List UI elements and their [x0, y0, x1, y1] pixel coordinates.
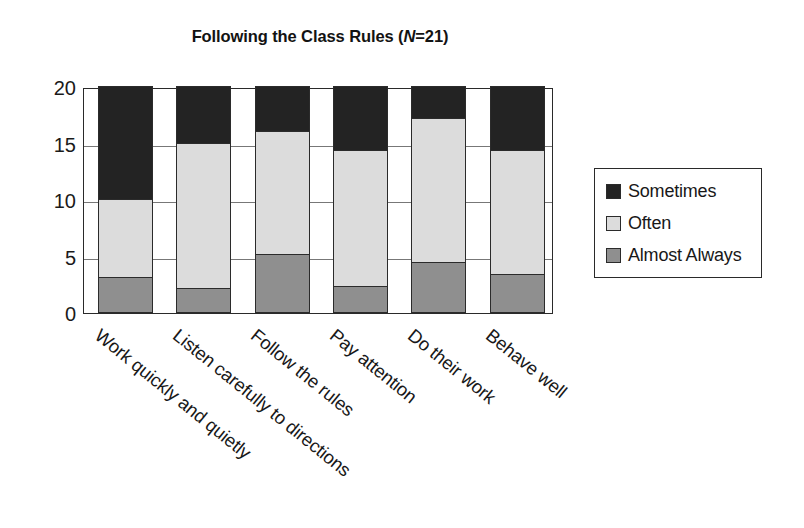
stacked-bar[interactable] — [333, 87, 388, 313]
bar-group — [397, 89, 475, 313]
chart-figure: Following the Class Rules (N=21) 0510152… — [0, 0, 804, 528]
legend-label: Sometimes — [628, 181, 716, 202]
chart-title: Following the Class Rules (N=21) — [0, 27, 640, 46]
x-axis-label: Behave well — [483, 326, 570, 402]
bar-segment-almost-always[interactable] — [490, 273, 545, 313]
x-axis-label: Listen carefully to directions — [169, 326, 353, 480]
bar-segment-sometimes[interactable] — [490, 86, 545, 152]
legend-swatch-icon — [606, 184, 621, 199]
stacked-bar[interactable] — [176, 87, 231, 313]
legend-item[interactable]: Sometimes — [606, 180, 716, 202]
legend-item[interactable]: Almost Always — [606, 244, 741, 266]
legend-item[interactable]: Often — [606, 212, 671, 234]
legend-label: Often — [628, 213, 671, 234]
legend-label: Almost Always — [628, 245, 741, 266]
bar-segment-sometimes[interactable] — [176, 86, 231, 144]
bar-segment-almost-always[interactable] — [176, 288, 231, 313]
x-axis-label: Pay attention — [326, 326, 420, 407]
bar-group — [162, 89, 240, 313]
y-tick-label: 5 — [32, 248, 76, 268]
bar-segment-sometimes[interactable] — [333, 86, 388, 152]
bar-group — [319, 89, 397, 313]
bar-segment-almost-always[interactable] — [98, 277, 153, 313]
bar-segment-sometimes[interactable] — [411, 86, 466, 119]
bar-segment-almost-always[interactable] — [333, 286, 388, 313]
bar-group — [241, 89, 319, 313]
bar-group — [84, 89, 162, 313]
stacked-bar[interactable] — [490, 87, 545, 313]
y-tick-label: 15 — [32, 135, 76, 155]
bar-segment-often[interactable] — [176, 142, 231, 289]
chart-legend: SometimesOftenAlmost Always — [594, 168, 762, 278]
legend-swatch-icon — [606, 216, 621, 231]
y-axis: 05101520 — [26, 88, 76, 314]
bar-segment-almost-always[interactable] — [411, 262, 466, 313]
chart-title-prefix: Following the Class Rules ( — [192, 27, 404, 45]
stacked-bar[interactable] — [255, 87, 310, 313]
bar-segment-often[interactable] — [411, 117, 466, 263]
bar-segment-almost-always[interactable] — [255, 254, 310, 313]
stacked-bar[interactable] — [98, 87, 153, 313]
plot-area — [83, 88, 553, 314]
bar-segment-sometimes[interactable] — [255, 86, 310, 133]
chart-title-italic-n: N — [403, 27, 415, 45]
y-tick-label: 10 — [32, 191, 76, 211]
bar-segment-often[interactable] — [333, 150, 388, 287]
bar-group — [476, 89, 554, 313]
chart-title-suffix: =21) — [415, 27, 448, 45]
bar-segment-often[interactable] — [490, 150, 545, 274]
bar-segment-often[interactable] — [98, 199, 153, 278]
stacked-bar[interactable] — [411, 87, 466, 313]
x-axis-label: Follow the rules — [248, 326, 358, 420]
x-axis-label: Work quickly and quietly — [91, 326, 254, 463]
y-tick-label: 0 — [32, 304, 76, 324]
x-axis-label: Do their work — [404, 326, 498, 407]
legend-swatch-icon — [606, 248, 621, 263]
y-tick-label: 20 — [32, 78, 76, 98]
bar-segment-sometimes[interactable] — [98, 86, 153, 200]
bar-segment-often[interactable] — [255, 131, 310, 255]
